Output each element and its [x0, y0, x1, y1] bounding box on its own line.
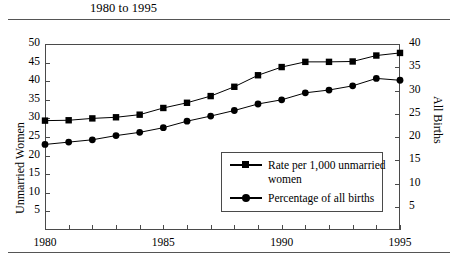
circle-data-point [113, 132, 120, 139]
square-data-point [278, 64, 284, 70]
circle-data-point [231, 107, 238, 114]
circle-data-point [65, 139, 72, 146]
legend-label-rate: Rate per 1,000 unmarried women [268, 158, 386, 186]
square-data-point [373, 52, 379, 58]
circle-data-point [326, 87, 333, 94]
legend-label-rate-line2: women [268, 173, 302, 185]
figure: 1980 to 1995 Unmarried Women All Births … [0, 0, 458, 261]
circle-data-point [160, 124, 167, 131]
circle-marker-icon [230, 197, 262, 199]
square-data-point [397, 50, 403, 56]
circle-data-point [302, 89, 309, 96]
circle-data-point [373, 75, 380, 82]
square-data-point [184, 100, 190, 106]
plot-series-layer [0, 0, 458, 261]
series-line [45, 78, 400, 144]
square-data-point [136, 111, 142, 117]
circle-data-point [349, 82, 356, 89]
circle-data-point [255, 101, 262, 108]
circle-data-point [207, 113, 214, 120]
circle-data-point [89, 136, 96, 143]
circle-data-point [184, 118, 191, 125]
legend: Rate per 1,000 unmarried women Percentag… [221, 152, 383, 212]
square-data-point [65, 117, 71, 123]
square-data-point [302, 59, 308, 65]
square-data-point [207, 93, 213, 99]
square-data-point [42, 117, 48, 123]
circle-data-point [397, 77, 404, 84]
square-data-point [89, 115, 95, 121]
circle-data-point [278, 96, 285, 103]
square-data-point [160, 105, 166, 111]
square-marker-icon [230, 164, 262, 166]
square-data-point [255, 72, 261, 78]
circle-data-point [136, 129, 143, 136]
legend-label-rate-line1: Rate per 1,000 unmarried [268, 159, 386, 171]
square-data-point [349, 58, 355, 64]
square-data-point [326, 59, 332, 65]
square-data-point [231, 84, 237, 90]
circle-data-point [42, 141, 49, 148]
legend-label-percentage: Percentage of all births [268, 191, 374, 205]
square-data-point [113, 114, 119, 120]
